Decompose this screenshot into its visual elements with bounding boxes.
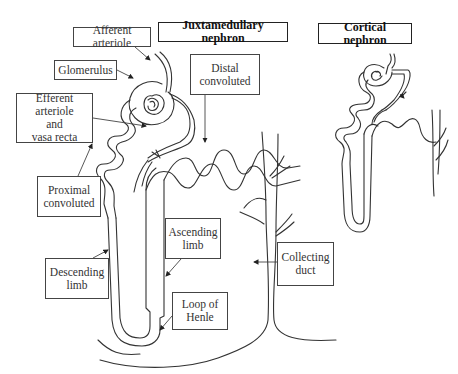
label-text: convoluted	[199, 75, 250, 88]
label-descending-limb: Descending limb	[45, 258, 109, 299]
label-proximal-convoluted: Proximal convoluted	[37, 176, 101, 217]
label-text: Collecting	[282, 251, 330, 264]
juxtamedullary-nephron-title: Juxtamedullary nephron	[158, 22, 288, 42]
label-afferent-arteriole: Afferent arteriole	[73, 27, 151, 47]
cortical-nephron-title: Cortical nephron	[318, 23, 412, 44]
label-glomerulus: Glomerulus	[54, 60, 117, 80]
label-text: Descending	[50, 266, 104, 279]
title-text: Cortical nephron	[321, 21, 409, 47]
title-text: Juxtamedullary nephron	[161, 19, 285, 45]
label-text: and	[46, 118, 63, 131]
label-text: duct	[296, 264, 316, 277]
label-text: limb	[182, 239, 203, 252]
label-efferent-arteriole: Efferent arteriole and vasa recta	[16, 93, 93, 143]
label-text: vasa recta	[32, 131, 78, 144]
glomerulus-icon	[129, 82, 195, 162]
label-text: Distal	[211, 62, 238, 75]
label-text: limb	[66, 279, 87, 292]
label-ascending-limb: Ascending limb	[165, 218, 221, 259]
label-collecting-duct: Collecting duct	[277, 242, 334, 286]
label-text: Loop of	[182, 298, 219, 311]
label-loop-of-henle: Loop of Henle	[172, 292, 228, 330]
label-text: Afferent arteriole	[76, 24, 148, 50]
label-text: Efferent arteriole	[19, 92, 90, 118]
label-text: Ascending	[168, 226, 217, 239]
cortical-nephron-illustration	[336, 54, 448, 232]
label-text: Proximal	[48, 184, 90, 197]
label-text: Glomerulus	[58, 64, 112, 77]
label-distal-convoluted: Distal convoluted	[190, 54, 260, 95]
label-text: convoluted	[43, 197, 94, 210]
label-text: Henle	[186, 311, 213, 324]
